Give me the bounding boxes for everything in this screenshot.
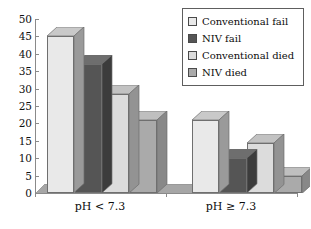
y-axis-tick <box>35 36 39 37</box>
x-axis-group-label: pH < 7.3 <box>55 201 145 212</box>
bar-side-face <box>274 134 285 193</box>
y-axis-tick-label: 30 <box>12 84 32 95</box>
legend-item: NIV fail <box>188 31 299 46</box>
y-axis-tick-label-wrap: 50 <box>8 14 32 24</box>
legend-swatch-conventional-died <box>188 51 197 60</box>
bar-side-face <box>247 149 258 193</box>
legend-item: Conventional fail <box>188 14 299 29</box>
x-axis-tick <box>297 193 298 197</box>
bar-front-face <box>192 120 219 193</box>
legend-item: NIV died <box>188 65 299 80</box>
bar-side-face <box>129 85 140 193</box>
y-axis-tick-label: 35 <box>12 66 32 77</box>
legend-swatch-niv-fail <box>188 34 197 43</box>
x-axis-tick <box>166 193 167 197</box>
legend-item: Conventional died <box>188 48 299 63</box>
legend-label: NIV died <box>202 68 247 78</box>
y-axis-tick <box>35 71 39 72</box>
y-axis-tick <box>35 158 39 159</box>
y-axis-tick-label-wrap: 35 <box>8 66 32 76</box>
bar-side-face <box>302 167 311 193</box>
y-axis-tick-label: 5 <box>12 171 32 182</box>
legend-label: NIV fail <box>202 34 241 44</box>
y-axis-tick-label: 10 <box>12 153 32 164</box>
y-axis-tick <box>35 89 39 90</box>
y-axis-tick-label-wrap: 10 <box>8 153 32 163</box>
y-axis-tick-label: 20 <box>12 118 32 129</box>
x-axis-tick <box>35 193 36 197</box>
chart-legend: Conventional fail NIV fail Conventional … <box>182 8 304 86</box>
x-axis-group-label: pH ≥ 7.3 <box>186 201 276 212</box>
y-axis-tick-label: 15 <box>12 136 32 147</box>
legend-swatch-conventional-fail <box>188 17 197 26</box>
bar-side-face <box>157 111 168 193</box>
y-axis-tick <box>35 123 39 124</box>
y-axis-tick-label-wrap: 30 <box>8 84 32 94</box>
y-axis-tick-label-wrap: 40 <box>8 49 32 59</box>
y-axis-tick-label: 40 <box>12 49 32 60</box>
legend-swatch-niv-died <box>188 68 197 77</box>
legend-label: Conventional died <box>202 51 294 61</box>
y-axis-tick-label-wrap: 5 <box>8 171 32 181</box>
y-axis-tick <box>35 141 39 142</box>
bar-side-face <box>219 111 230 193</box>
y-axis-tick-label: 25 <box>12 101 32 112</box>
bar-front-face <box>47 36 74 193</box>
y-axis-tick-label-wrap: 0 <box>8 188 32 198</box>
legend-label: Conventional fail <box>202 17 288 27</box>
y-axis-tick-label: 0 <box>12 188 32 199</box>
y-axis-tick-label-wrap: 15 <box>8 136 32 146</box>
y-axis-tick <box>35 176 39 177</box>
bar-side-face <box>102 55 113 193</box>
bar-chart: 05101520253035404550 pH < 7.3pH ≥ 7.3 Co… <box>0 0 310 229</box>
y-axis-tick <box>35 19 39 20</box>
y-axis-tick-label-wrap: 25 <box>8 101 32 111</box>
bar-side-face <box>74 27 85 193</box>
bar-1-group-2 <box>192 111 229 193</box>
y-axis-tick-label-wrap: 45 <box>8 31 32 41</box>
y-axis-tick-label-wrap: 20 <box>8 118 32 128</box>
y-axis-tick-label: 45 <box>12 31 32 42</box>
y-axis-tick-label: 50 <box>12 14 32 25</box>
y-axis-tick <box>35 54 39 55</box>
bar-1-group-1 <box>47 27 84 193</box>
y-axis-tick <box>35 106 39 107</box>
